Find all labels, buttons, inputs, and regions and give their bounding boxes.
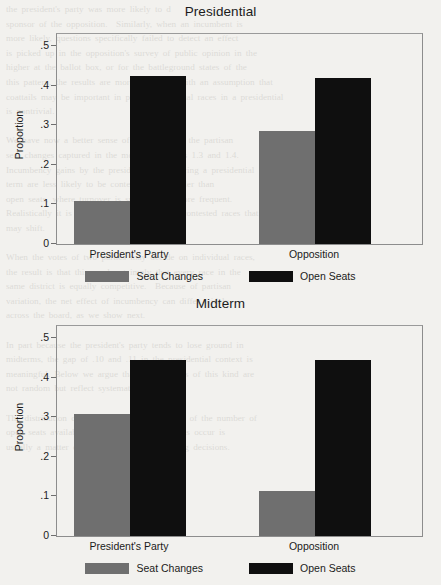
legend-item-presidential-open-seats[interactable]: Open Seats [249,270,355,282]
x-axis-category-presidential-0: President's Party [49,248,209,260]
y-axis-tick-label-presidential-2: .2 [40,158,49,171]
plot-area-presidential [56,33,423,245]
bar-presidential-opposition-seat-changes [259,131,315,244]
legend-swatch-open-seats-icon [249,563,293,574]
y-axis-tick-label-presidential-3: .3 [40,118,49,131]
chart-title-midterm: Midterm [0,296,441,311]
bar-presidential-presidents-party-open-seats [130,76,186,244]
bar-midterm-opposition-seat-changes [259,491,315,536]
y-axis-tick-label-midterm-4: .4 [40,371,49,384]
y-axis-tick-label-midterm-2: .2 [40,450,49,463]
legend-label-open-seats: Open Seats [300,270,355,282]
chart-title-presidential: Presidential [0,4,441,19]
y-axis-tick-label-presidential-1: .1 [40,197,49,210]
legend-midterm: Seat ChangesOpen Seats [0,562,441,574]
y-axis-tick-label-presidential-4: .4 [40,79,49,92]
bar-midterm-opposition-open-seats [315,360,371,536]
bar-midterm-presidents-party-open-seats [130,360,186,536]
plot-inner-presidential [57,34,422,244]
y-axis-tick-label-presidential-5: .5 [40,39,49,52]
chart-panel-midterm: Midterm Proportion 0.1.2.3.4.5 President… [0,292,441,584]
legend-label-seat-changes: Seat Changes [136,562,203,574]
plot-inner-midterm [57,326,422,536]
y-axis-tick-label-midterm-1: .1 [40,489,49,502]
bar-presidential-opposition-open-seats [315,78,371,244]
legend-item-midterm-seat-changes[interactable]: Seat Changes [85,562,203,574]
chart-panel-presidential: Presidential Proportion 0.1.2.3.4.5 Pres… [0,0,441,292]
y-axis-tick-label-midterm-3: .3 [40,410,49,423]
x-axis-category-midterm-1: Opposition [234,540,394,552]
legend-swatch-open-seats-icon [249,271,293,282]
legend-label-open-seats: Open Seats [300,562,355,574]
bar-presidential-presidents-party-seat-changes [74,201,130,244]
y-axis-midterm: 0.1.2.3.4.5 [0,325,56,538]
legend-swatch-seat-changes-icon [85,563,129,574]
legend-item-presidential-seat-changes[interactable]: Seat Changes [85,270,203,282]
legend-swatch-seat-changes-icon [85,271,129,282]
y-axis-presidential: 0.1.2.3.4.5 [0,33,56,246]
legend-item-midterm-open-seats[interactable]: Open Seats [249,562,355,574]
bar-midterm-presidents-party-seat-changes [74,414,130,536]
plot-area-midterm [56,325,423,537]
x-axis-category-presidential-1: Opposition [234,248,394,260]
legend-presidential: Seat ChangesOpen Seats [0,270,441,282]
legend-label-seat-changes: Seat Changes [136,270,203,282]
x-axis-category-midterm-0: President's Party [49,540,209,552]
y-axis-tick-label-midterm-5: .5 [40,331,49,344]
